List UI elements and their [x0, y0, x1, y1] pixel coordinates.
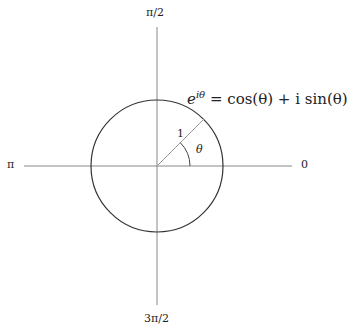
label-zero: 0 — [301, 158, 308, 171]
formula-exponent: iθ — [196, 89, 205, 100]
label-pi: π — [7, 158, 14, 171]
label-pi-over-2: π/2 — [146, 6, 164, 19]
angle-label: θ — [196, 143, 203, 156]
label-3pi-over-2: 3π/2 — [144, 312, 169, 325]
radius-label: 1 — [177, 127, 184, 140]
formula-base: e — [187, 90, 196, 108]
euler-formula: eiθ = cos(θ) + i sin(θ) — [187, 89, 348, 108]
formula-rhs: = cos(θ) + i sin(θ) — [210, 90, 348, 108]
angle-arc — [180, 143, 190, 166]
